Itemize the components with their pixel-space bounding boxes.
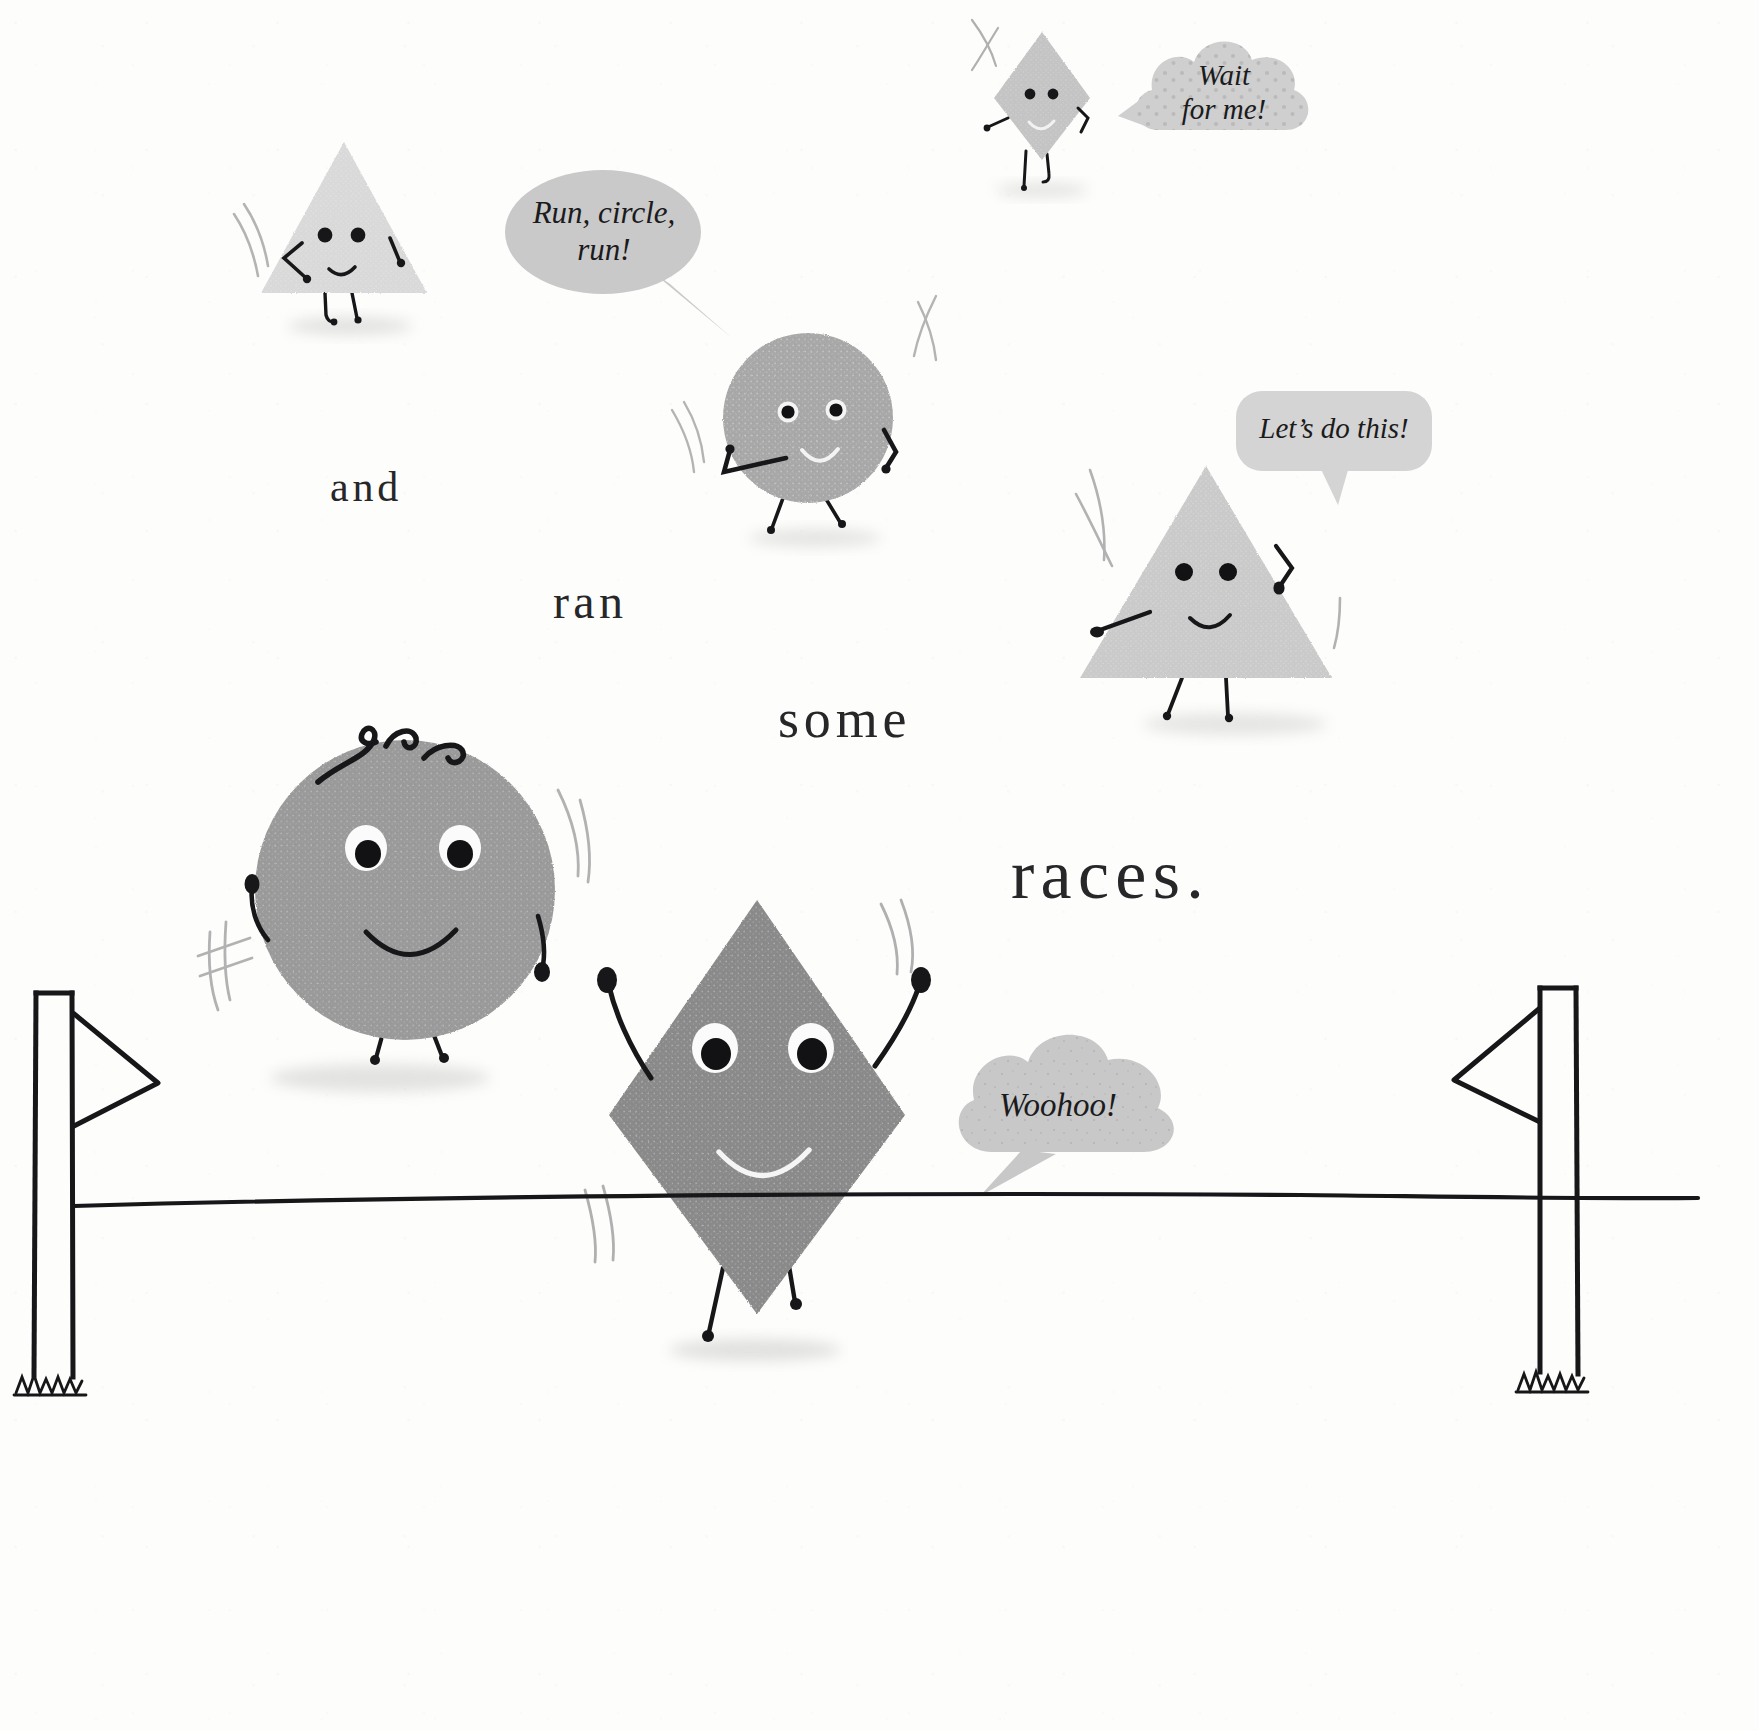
legs <box>1024 151 1049 186</box>
speech-bubble-lets-do-this-text: Let’s do this! <box>1242 411 1426 445</box>
narration-word-and: and <box>330 466 402 508</box>
flag-shape <box>1454 1008 1540 1122</box>
narration-word-races: races. <box>1011 840 1210 910</box>
eye-right <box>788 1023 834 1073</box>
picture-book-page: and ran some races. <box>0 0 1759 1731</box>
eye-right <box>439 825 481 871</box>
eye-left <box>318 228 333 243</box>
speech-bubble-woohoo-text: Woohoo! <box>968 1086 1148 1125</box>
eye-left <box>778 402 799 423</box>
motion-lines-icon <box>972 20 998 70</box>
shadow <box>996 183 1088 197</box>
shadow <box>270 1064 490 1092</box>
finish-post-right <box>1390 972 1610 1404</box>
eye-left <box>1025 89 1036 100</box>
eye-right <box>351 228 366 243</box>
finish-post-left <box>10 975 210 1405</box>
shadow <box>669 1339 841 1361</box>
eye-right <box>1219 563 1237 581</box>
speech-bubble-wait-for-me: Wait for me! <box>1110 18 1330 168</box>
post-pole <box>34 993 73 1377</box>
eye-left <box>692 1023 738 1073</box>
speech-bubble-wait-for-me-text: Wait for me! <box>1154 58 1294 126</box>
eye-right <box>1048 89 1059 100</box>
eye-left <box>345 825 387 871</box>
character-large-diamond <box>545 870 995 1380</box>
shadow <box>288 317 412 335</box>
speech-bubble-run-circle-run: Run, circle, run! <box>500 160 760 360</box>
eye-right <box>826 400 847 421</box>
speech-bubble-run-circle-run-text: Run, circle, run! <box>514 195 694 268</box>
narration-word-ran: ran <box>553 578 627 626</box>
speech-bubble-lets-do-this: Let’s do this! <box>1232 385 1462 515</box>
legs <box>1168 678 1228 716</box>
motion-lines-icon <box>234 204 268 276</box>
rounded-rect-bubble-shape <box>1236 391 1432 505</box>
flag-shape <box>72 1013 158 1127</box>
character-small-triangle <box>230 130 460 350</box>
narration-word-some: some <box>778 692 911 746</box>
post-pole <box>1540 988 1578 1374</box>
eye-left <box>1175 563 1193 581</box>
